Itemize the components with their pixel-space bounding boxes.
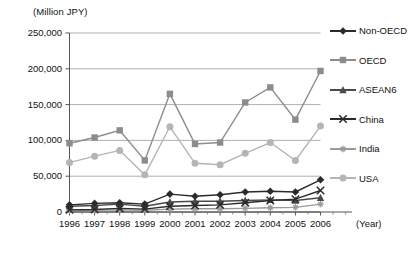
x-axis-tickmarks [70,212,346,216]
y-tick-label: 0 [6,206,62,217]
y-tick-label: 250,000 [6,27,62,38]
y-tick-label: 150,000 [6,99,62,110]
legend-label: USA [359,173,379,184]
legend-label: China [359,114,384,125]
asterisk-marker-icon [330,143,356,155]
legend-item-asean6[interactable]: ASEAN6 [330,75,418,105]
gridlines [70,33,321,212]
chart-legend: Non-OECDOECDASEAN6ChinaIndiaUSA [330,16,418,193]
legend-item-non-oecd[interactable]: Non-OECD [330,16,418,46]
y-tick-label: 100,000 [6,134,62,145]
x-axis-title: (Year) [356,218,382,229]
legend-label: Non-OECD [359,25,407,36]
x-tick-label: 2006 [306,218,336,229]
cross-marker-icon [330,113,356,125]
line-chart: (Million JPY) 250,000200,000150,000100,0… [0,0,418,260]
legend-label: OECD [359,55,386,66]
triangle-marker-icon [330,84,356,96]
square-marker-icon [330,54,356,66]
diamond-marker-icon [330,25,356,37]
series-oecd [66,68,323,164]
y-tick-label: 50,000 [6,170,62,181]
legend-item-india[interactable]: India [330,134,418,164]
series-usa [66,123,324,179]
legend-label: India [359,143,380,154]
legend-item-oecd[interactable]: OECD [330,46,418,76]
legend-item-china[interactable]: China [330,105,418,135]
legend-label: ASEAN6 [359,84,397,95]
y-tick-label: 200,000 [6,63,62,74]
legend-item-usa[interactable]: USA [330,164,418,194]
circle-marker-icon [330,172,356,184]
